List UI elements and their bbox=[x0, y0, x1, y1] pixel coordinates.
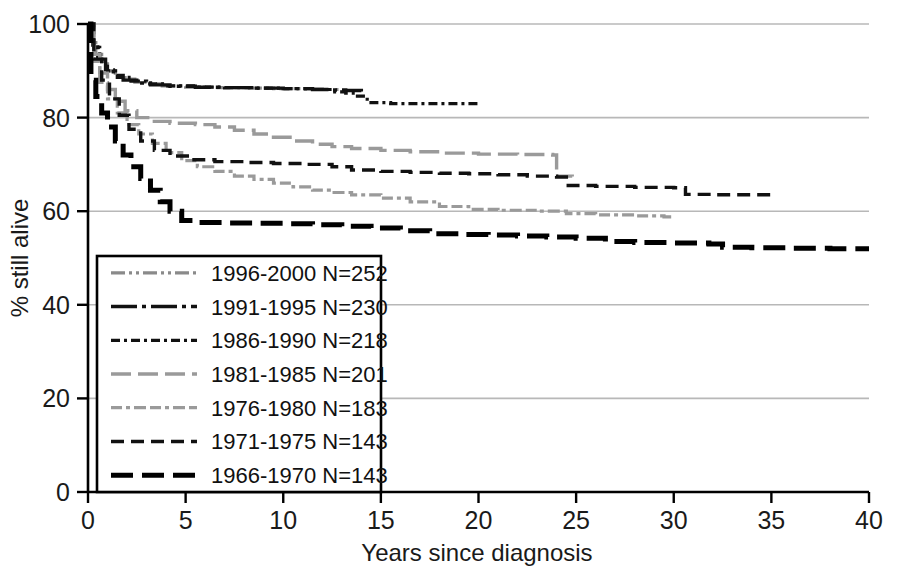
y-axis-title: % still alive bbox=[6, 199, 33, 318]
survival-curve-1966-1970 bbox=[88, 24, 869, 249]
legend-group: 1996-2000 N=2521991-1995 N=2301986-1990 … bbox=[97, 256, 388, 492]
x-tick-label-30: 30 bbox=[660, 506, 688, 534]
legend-label-1991-1995: 1991-1995 N=230 bbox=[211, 295, 388, 320]
x-tick-label-25: 25 bbox=[562, 506, 590, 534]
survival-curve-1976-1980 bbox=[88, 24, 674, 217]
x-tick-label-5: 5 bbox=[179, 506, 193, 534]
survival-curve-1971-1975 bbox=[88, 24, 771, 195]
y-tick-label-100: 100 bbox=[28, 10, 70, 38]
x-tick-label-40: 40 bbox=[855, 506, 883, 534]
survival-curve-1986-1990 bbox=[88, 24, 479, 104]
survival-chart-figure: 0510152025303540 020406080100 1996-2000 … bbox=[0, 0, 897, 572]
x-tick-label-20: 20 bbox=[465, 506, 493, 534]
y-tick-label-60: 60 bbox=[42, 197, 70, 225]
x-tick-labels-group: 0510152025303540 bbox=[81, 506, 883, 534]
legend-label-1976-1980: 1976-1980 N=183 bbox=[211, 396, 388, 421]
chart-canvas: 0510152025303540 020406080100 1996-2000 … bbox=[0, 0, 897, 572]
y-tick-label-20: 20 bbox=[42, 384, 70, 412]
survival-curve-1991-1995 bbox=[88, 24, 361, 91]
x-tick-label-35: 35 bbox=[757, 506, 785, 534]
legend-label-1966-1970: 1966-1970 N=143 bbox=[211, 463, 388, 488]
x-tick-label-15: 15 bbox=[367, 506, 395, 534]
y-tick-label-0: 0 bbox=[56, 478, 70, 506]
x-axis-title: Years since diagnosis bbox=[361, 539, 592, 566]
survival-curves-group bbox=[88, 24, 869, 249]
legend-label-1971-1975: 1971-1975 N=143 bbox=[211, 429, 388, 454]
y-tick-label-80: 80 bbox=[42, 104, 70, 132]
legend-label-1986-1990: 1986-1990 N=218 bbox=[211, 328, 388, 353]
y-tick-label-40: 40 bbox=[42, 291, 70, 319]
legend-label-1981-1985: 1981-1985 N=201 bbox=[211, 362, 388, 387]
x-tick-label-0: 0 bbox=[81, 506, 95, 534]
survival-curve-1981-1985 bbox=[88, 24, 572, 177]
x-tick-label-10: 10 bbox=[269, 506, 297, 534]
y-tick-labels-group: 020406080100 bbox=[28, 10, 70, 506]
legend-label-1996-2000: 1996-2000 N=252 bbox=[211, 261, 388, 286]
